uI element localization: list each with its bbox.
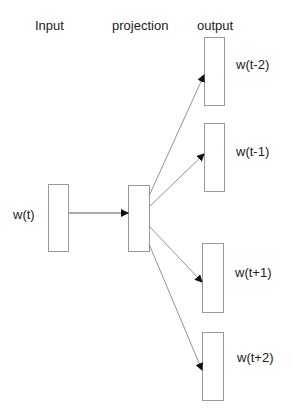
- arrow-projection-to-t-minus-1: [149, 154, 204, 207]
- arrow-projection-to-t-minus-2: [149, 75, 204, 196]
- arrow-projection-to-t-plus-1: [149, 226, 202, 282]
- arrow-projection-to-t-plus-2: [149, 244, 202, 370]
- arrows-layer: [0, 0, 292, 417]
- skipgram-diagram: Input projection output w(t) w(t-2) w(t-…: [0, 0, 292, 417]
